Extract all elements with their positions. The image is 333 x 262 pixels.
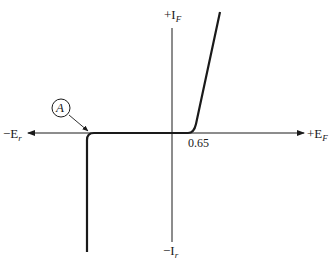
label-x-negative: −Er [3, 127, 22, 140]
diode-characteristic-diagram [0, 0, 333, 262]
label-point-a: A [56, 101, 64, 114]
label-x-positive: +EF [307, 127, 328, 140]
label-y-negative: −Ir [163, 244, 178, 257]
label-knee-voltage: 0.65 [188, 137, 209, 149]
characteristic-curve [87, 12, 220, 252]
point-a-leader-arrow [69, 115, 88, 131]
label-y-positive: +IF [164, 8, 181, 21]
